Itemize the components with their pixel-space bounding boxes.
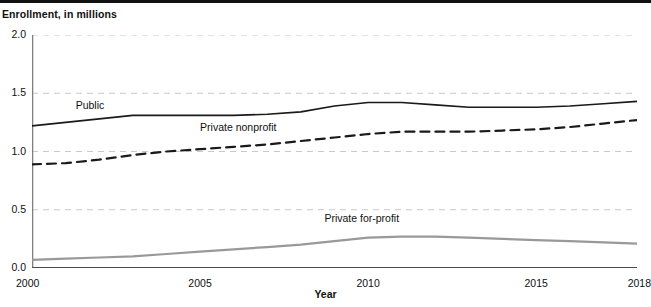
- series-label-private-nonprofit: Private nonprofit: [200, 121, 276, 133]
- y-tick-label: 0.5: [0, 203, 26, 215]
- series-line-private-for-profit: [32, 237, 637, 260]
- x-axis-title: Year: [0, 288, 651, 300]
- y-tick-label: 1.5: [0, 86, 26, 98]
- header-rule: [0, 0, 651, 3]
- y-axis-title: Enrollment, in millions: [2, 8, 117, 20]
- chart-canvas: [32, 35, 637, 268]
- series-line-public: [32, 101, 637, 125]
- enrollment-line-chart-figure: Enrollment, in millions 0.00.51.01.52.0 …: [0, 0, 651, 307]
- series-label-private-for-profit: Private for-profit: [324, 212, 399, 224]
- series-label-public: Public: [76, 99, 105, 111]
- y-tick-label: 2.0: [0, 28, 26, 40]
- plot-area: [32, 35, 637, 268]
- y-tick-label: 1.0: [0, 145, 26, 157]
- y-tick-label: 0.0: [0, 261, 26, 273]
- series-line-private-nonprofit: [32, 120, 637, 164]
